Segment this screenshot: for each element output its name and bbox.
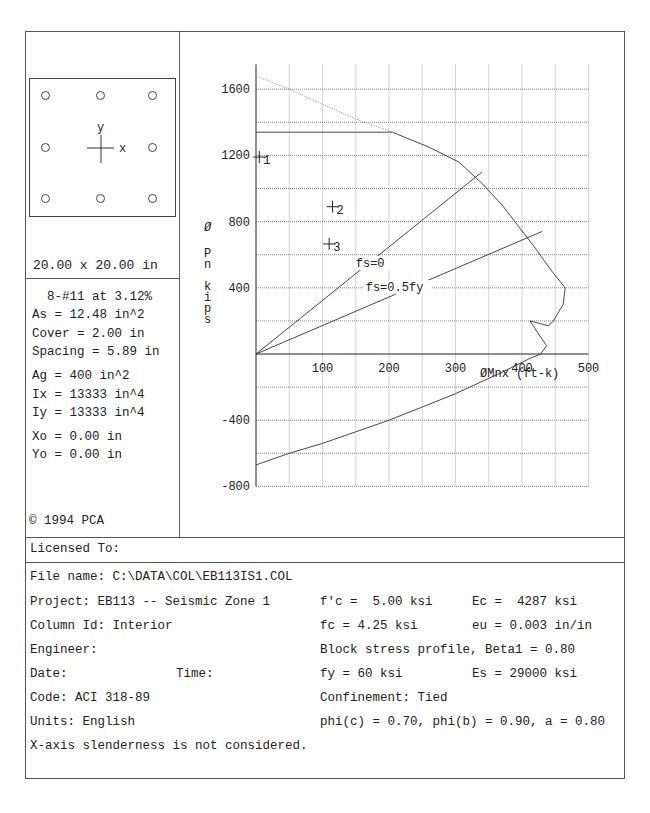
ix: Ix = 13333 in^4 bbox=[32, 388, 145, 402]
divider bbox=[25, 562, 625, 563]
file-name: File name: C:\DATA\COL\EB113IS1.COL bbox=[30, 570, 293, 584]
x-tick-label: 100 bbox=[312, 362, 334, 376]
series-line bbox=[256, 76, 392, 132]
rebar-icon bbox=[41, 143, 50, 152]
rebar-icon bbox=[41, 194, 50, 203]
divider bbox=[25, 537, 625, 538]
rebar-icon bbox=[148, 194, 157, 203]
column-id: Column Id: Interior bbox=[30, 619, 173, 633]
rebar-summary: 8-#11 at 3.12% bbox=[47, 290, 152, 304]
x-axis-title: ØMnx (ft-k) bbox=[480, 367, 559, 381]
es: Es = 29000 ksi bbox=[472, 667, 577, 681]
fs0-label: fs=0 bbox=[356, 257, 385, 271]
units: Units: English bbox=[30, 715, 135, 729]
copyright: © 1994 PCA bbox=[29, 514, 104, 528]
fy: fy = 60 ksi bbox=[320, 667, 403, 681]
y-tick-label: 1600 bbox=[221, 83, 250, 97]
phi-factors: phi(c) = 0.70, phi(b) = 0.90, a = 0.80 bbox=[320, 715, 605, 729]
confinement: Confinement: Tied bbox=[320, 691, 448, 705]
ec: Ec = 4287 ksi bbox=[472, 595, 577, 609]
y-axis-title: Ø bbox=[203, 221, 212, 235]
yo: Yo = 0.00 in bbox=[32, 448, 122, 462]
xo: Xo = 0.00 in bbox=[32, 430, 122, 444]
licensed-to: Licensed To: bbox=[30, 542, 120, 556]
y-tick-label: 400 bbox=[228, 282, 250, 296]
load-point-label: 2 bbox=[336, 204, 343, 218]
y-axis-title: s bbox=[204, 313, 211, 327]
eu: eu = 0.003 in/in bbox=[472, 619, 592, 633]
fs05fy-label: fs=0.5fy bbox=[366, 281, 424, 295]
section-dimensions: 20.00 x 20.00 in bbox=[33, 259, 158, 273]
rebar-icon bbox=[96, 91, 105, 100]
x-tick-label: 500 bbox=[578, 362, 600, 376]
centroid-axes-icon bbox=[85, 135, 115, 165]
spacing: Spacing = 5.89 in bbox=[32, 345, 160, 359]
rebar-icon bbox=[96, 194, 105, 203]
date: Date: bbox=[30, 667, 68, 681]
x-tick-label: 200 bbox=[378, 362, 400, 376]
iy: Iy = 13333 in^4 bbox=[32, 406, 145, 420]
load-point-label: 3 bbox=[333, 241, 340, 255]
y-axis-label: y bbox=[97, 121, 104, 135]
rebar-icon bbox=[148, 143, 157, 152]
x-axis-label: x bbox=[119, 142, 126, 156]
fc: fc = 4.25 ksi bbox=[320, 619, 418, 633]
slenderness-note: X-axis slenderness is not considered. bbox=[30, 739, 308, 753]
block-stress: Block stress profile, Beta1 = 0.80 bbox=[320, 643, 575, 657]
interaction-diagram-chart: -800-40040080012001600100200300400500123… bbox=[180, 32, 624, 537]
y-tick-label: 800 bbox=[228, 216, 250, 230]
load-point-label: 1 bbox=[263, 154, 270, 168]
series-line bbox=[256, 132, 565, 465]
divider bbox=[25, 278, 180, 279]
fpc: f'c = 5.00 ksi bbox=[320, 595, 433, 609]
project: Project: EB113 -- Seismic Zone 1 bbox=[30, 595, 270, 609]
time: Time: bbox=[176, 667, 214, 681]
cover: Cover = 2.00 in bbox=[32, 327, 145, 341]
x-tick-label: 300 bbox=[445, 362, 467, 376]
engineer: Engineer: bbox=[30, 643, 98, 657]
steel-area: As = 12.48 in^2 bbox=[32, 308, 145, 322]
gross-area: Ag = 400 in^2 bbox=[32, 369, 130, 383]
rebar-icon bbox=[148, 91, 157, 100]
y-tick-label: -400 bbox=[221, 414, 250, 428]
code: Code: ACI 318-89 bbox=[30, 691, 150, 705]
rebar-icon bbox=[41, 91, 50, 100]
y-tick-label: 1200 bbox=[221, 149, 250, 163]
y-axis-title: n bbox=[204, 258, 211, 272]
y-tick-label: -800 bbox=[221, 480, 250, 494]
